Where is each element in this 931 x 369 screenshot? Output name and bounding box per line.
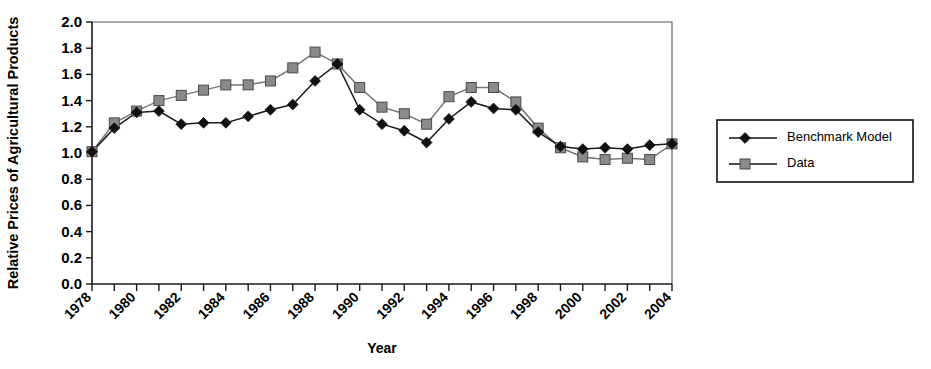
legend-marker-data	[740, 159, 750, 169]
y-axis-tick-label: 0.6	[61, 196, 82, 213]
x-axis-tick-label: 1984	[195, 289, 228, 322]
y-axis-tick-label: 0.4	[61, 223, 83, 240]
y-axis-tick-label: 0.0	[61, 275, 82, 292]
data-point-data	[422, 119, 432, 129]
data-point-benchmark-model	[399, 125, 410, 136]
y-axis-tick-label: 1.2	[61, 118, 82, 135]
legend-label: Benchmark Model	[787, 129, 892, 144]
x-axis-tick-label: 1994	[418, 289, 451, 322]
relative-prices-line-chart: 0.00.20.40.60.81.01.21.41.61.82.01978198…	[0, 0, 931, 369]
data-point-data	[489, 83, 499, 93]
x-axis-tick-label: 1988	[284, 289, 317, 322]
y-axis-tick-label: 1.4	[61, 92, 83, 109]
y-axis-tick-label: 1.6	[61, 65, 82, 82]
data-point-data	[645, 155, 655, 165]
y-axis-title: Relative Prices of Agricultural Products	[5, 17, 21, 290]
y-axis-tick-label: 1.8	[61, 39, 82, 56]
x-axis-tick-label: 1996	[462, 289, 495, 322]
data-point-data	[600, 155, 610, 165]
data-point-data	[399, 109, 409, 119]
data-point-benchmark-model	[198, 117, 209, 128]
data-point-data	[221, 80, 231, 90]
data-point-data	[355, 83, 365, 93]
data-point-data	[265, 76, 275, 86]
legend-label: Data	[787, 155, 815, 170]
data-point-data	[466, 83, 476, 93]
data-point-data	[243, 80, 253, 90]
data-point-data	[288, 63, 298, 73]
chart-figure: 0.00.20.40.60.81.01.21.41.61.82.01978198…	[0, 0, 931, 369]
data-point-benchmark-model	[243, 111, 254, 122]
x-axis-tick-label: 1986	[239, 289, 272, 322]
data-point-data	[444, 92, 454, 102]
y-axis-tick-label: 0.8	[61, 170, 82, 187]
x-axis-tick-label: 2002	[596, 289, 629, 322]
x-axis-tick-label: 1992	[373, 289, 406, 322]
data-point-data	[154, 96, 164, 106]
x-axis-title: Year	[367, 340, 397, 356]
x-axis-tick-label: 1990	[328, 289, 361, 322]
x-axis-tick-label: 2004	[641, 289, 674, 322]
y-axis-tick-label: 0.2	[61, 249, 82, 266]
x-axis-tick-label: 1998	[507, 289, 540, 322]
x-axis-tick-label: 1978	[61, 289, 94, 322]
data-point-benchmark-model	[488, 103, 499, 114]
data-point-data	[377, 102, 387, 112]
data-point-benchmark-model	[377, 119, 388, 130]
data-point-data	[310, 47, 320, 57]
data-point-benchmark-model	[265, 104, 276, 115]
y-axis-tick-label: 2.0	[61, 13, 82, 30]
x-axis-tick-label: 1982	[150, 289, 183, 322]
data-point-benchmark-model	[220, 117, 231, 128]
data-point-data	[199, 85, 209, 95]
data-point-benchmark-model	[644, 140, 655, 151]
y-axis-tick-label: 1.0	[61, 144, 82, 161]
data-point-benchmark-model	[354, 104, 365, 115]
x-axis-tick-label: 2000	[552, 289, 585, 322]
data-point-data	[176, 90, 186, 100]
x-axis-tick-label: 1980	[105, 289, 138, 322]
data-point-benchmark-model	[176, 119, 187, 130]
data-point-benchmark-model	[600, 142, 611, 153]
data-point-benchmark-model	[154, 106, 165, 117]
